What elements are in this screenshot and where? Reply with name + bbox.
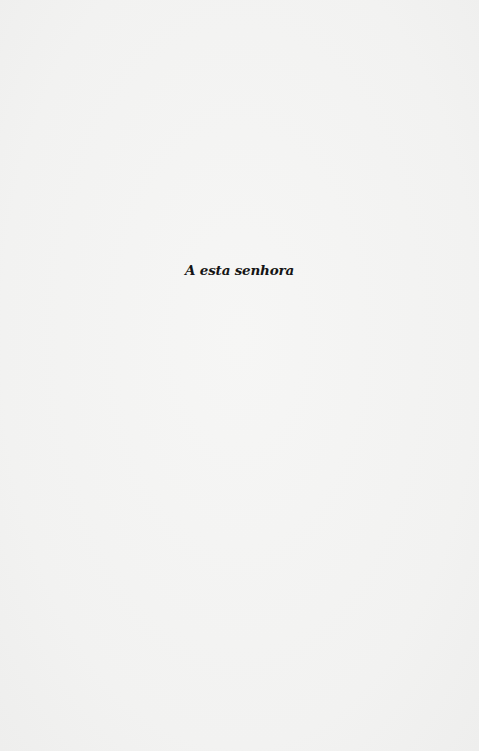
book-page: A esta senhora bbox=[0, 0, 479, 751]
dedication-text: A esta senhora bbox=[0, 261, 479, 279]
